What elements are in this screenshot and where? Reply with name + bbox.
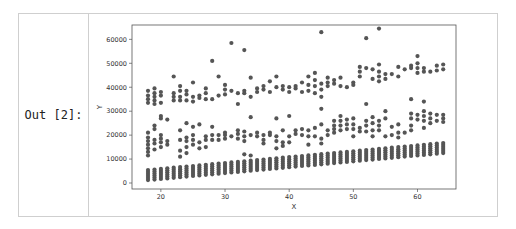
x-tick-label: 40 xyxy=(285,193,293,201)
data-point xyxy=(146,150,150,154)
x-tick-label: 50 xyxy=(349,193,357,201)
data-point xyxy=(217,133,221,137)
data-point xyxy=(223,131,227,135)
data-point xyxy=(249,95,253,99)
data-point xyxy=(377,70,381,74)
x-tick-label: 20 xyxy=(157,193,165,201)
data-point xyxy=(146,131,150,135)
data-point xyxy=(326,84,330,88)
data-point xyxy=(197,146,201,150)
data-point xyxy=(146,168,150,172)
data-point xyxy=(184,145,188,149)
data-point xyxy=(313,153,317,157)
data-point xyxy=(204,91,208,95)
data-point xyxy=(306,153,310,157)
data-point xyxy=(300,127,304,131)
data-point xyxy=(165,139,169,143)
data-point xyxy=(422,100,426,104)
data-point xyxy=(152,102,156,106)
data-point xyxy=(210,97,214,101)
y-tick-label: 20000 xyxy=(106,131,127,139)
data-point xyxy=(319,88,323,92)
data-point xyxy=(152,141,156,145)
scatter-plot: 2030405060010000200003000040000500006000… xyxy=(89,14,497,216)
data-point xyxy=(435,64,439,68)
data-point xyxy=(300,154,304,158)
data-point xyxy=(351,80,355,84)
data-point xyxy=(351,134,355,138)
data-point xyxy=(274,74,278,78)
data-point xyxy=(306,143,310,147)
data-point xyxy=(146,139,150,143)
data-point xyxy=(159,90,163,94)
data-point xyxy=(152,138,156,142)
data-point xyxy=(159,114,163,118)
data-point xyxy=(396,65,400,69)
data-point xyxy=(268,131,272,135)
data-point xyxy=(172,74,176,78)
data-point xyxy=(377,74,381,78)
data-point xyxy=(261,133,265,137)
data-point xyxy=(371,115,375,119)
data-point xyxy=(319,95,323,99)
data-point xyxy=(364,102,368,106)
data-point xyxy=(364,148,368,152)
data-point xyxy=(338,84,342,88)
data-point xyxy=(306,134,310,138)
data-point xyxy=(165,143,169,147)
data-point xyxy=(383,72,387,76)
data-point xyxy=(229,134,233,138)
data-point xyxy=(178,95,182,99)
data-point xyxy=(313,71,317,75)
data-point xyxy=(358,70,362,74)
data-point xyxy=(319,141,323,145)
data-point xyxy=(159,145,163,149)
data-point xyxy=(383,116,387,120)
data-point xyxy=(415,61,419,65)
data-point xyxy=(255,90,259,94)
data-point xyxy=(371,77,375,81)
data-point xyxy=(281,88,285,92)
data-point xyxy=(422,119,426,123)
data-point xyxy=(191,133,195,137)
data-point xyxy=(287,155,291,159)
data-point xyxy=(326,133,330,137)
data-point xyxy=(249,115,253,119)
data-point xyxy=(371,67,375,71)
data-point xyxy=(338,76,342,80)
data-point xyxy=(268,90,272,94)
data-point xyxy=(236,160,240,164)
data-point xyxy=(210,162,214,166)
data-point xyxy=(409,124,413,128)
data-point xyxy=(223,161,227,165)
data-point xyxy=(390,72,394,76)
data-point xyxy=(197,140,201,144)
data-point xyxy=(435,68,439,72)
data-point xyxy=(358,126,362,130)
data-point xyxy=(274,156,278,160)
data-point xyxy=(396,122,400,126)
data-point xyxy=(184,135,188,139)
data-point xyxy=(435,119,439,123)
data-point xyxy=(306,128,310,132)
data-point xyxy=(415,71,419,75)
data-point xyxy=(390,146,394,150)
data-point xyxy=(326,80,330,84)
data-point xyxy=(377,124,381,128)
data-point xyxy=(178,98,182,102)
data-point xyxy=(326,152,330,156)
data-point xyxy=(435,113,439,117)
data-point xyxy=(409,128,413,132)
data-point xyxy=(159,137,163,141)
data-point xyxy=(229,89,233,93)
data-point xyxy=(409,112,413,116)
data-point xyxy=(396,145,400,149)
data-point xyxy=(294,128,298,132)
data-point xyxy=(159,167,163,171)
data-point xyxy=(184,139,188,143)
data-point xyxy=(184,89,188,93)
data-point xyxy=(383,77,387,81)
data-point xyxy=(383,146,387,150)
data-point xyxy=(371,121,375,125)
data-point xyxy=(191,164,195,168)
